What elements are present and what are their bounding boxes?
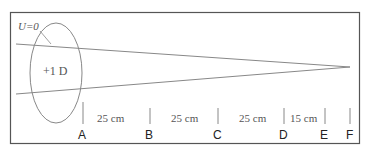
lens-power-label: +1 D (43, 64, 68, 78)
segment-label-ab: 25 cm (97, 112, 125, 124)
segment-label-cd: 25 cm (239, 112, 267, 124)
point-label-c: C (213, 128, 222, 142)
vergence-label: U=0 (18, 20, 39, 32)
point-label-e: E (320, 128, 328, 142)
vergence-pointer (40, 31, 51, 44)
point-label-f: F (346, 128, 353, 142)
segment-label-de: 15 cm (290, 112, 318, 124)
point-label-b: B (145, 128, 153, 142)
point-label-d: D (279, 128, 288, 142)
point-label-a: A (78, 128, 86, 142)
optics-diagram: U=0 +1 D 25 cm 25 cm 25 cm 15 cm A B C D… (0, 0, 370, 161)
segment-label-bc: 25 cm (171, 112, 199, 124)
